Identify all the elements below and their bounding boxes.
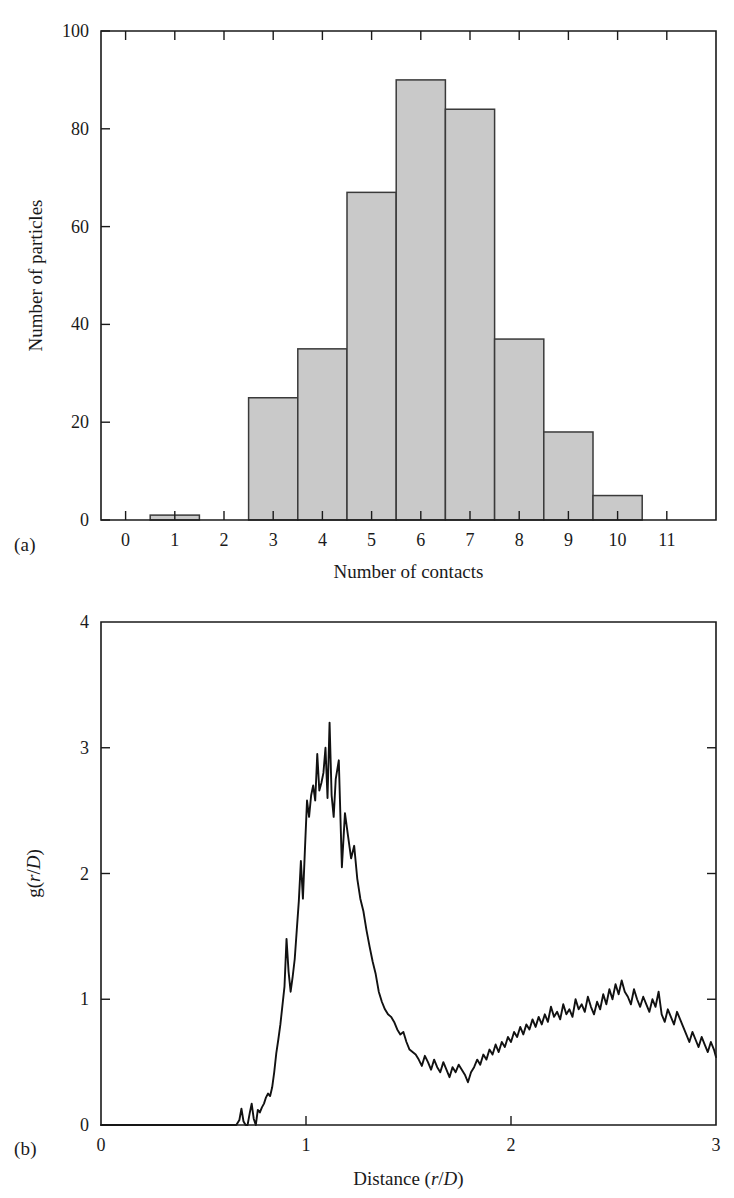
histogram-bar xyxy=(347,192,396,520)
y-tick-label: 2 xyxy=(80,864,89,884)
x-tick-label: 1 xyxy=(170,530,179,550)
bar-group xyxy=(150,80,642,520)
x-tick-label: 3 xyxy=(269,530,278,550)
x-tick-label: 6 xyxy=(416,530,425,550)
x-tick-label: 2 xyxy=(507,1135,516,1155)
x-axis-title: Distance (r/D) xyxy=(353,1168,463,1190)
x-axis-ticks: 0123 xyxy=(97,1116,721,1155)
x-tick-label: 10 xyxy=(609,530,627,550)
panel-a-tag: (a) xyxy=(14,534,36,556)
y-tick-label: 1 xyxy=(80,989,89,1009)
x-tick-label: 8 xyxy=(515,530,524,550)
histogram-bar xyxy=(544,432,593,520)
y-tick-label: 40 xyxy=(71,314,89,334)
radial-distribution-plot: 012340123Distance (r/D)g(r/D) xyxy=(0,598,734,1198)
x-tick-label: 2 xyxy=(220,530,229,550)
histogram-bar xyxy=(249,398,298,520)
y-tick-label: 100 xyxy=(62,21,89,41)
histogram-bar xyxy=(298,349,347,520)
y-axis-ticks: 020406080100 xyxy=(62,21,110,530)
figure-container: 02040608010001234567891011Number of cont… xyxy=(0,0,734,1198)
y-tick-label: 0 xyxy=(80,1115,89,1135)
histogram-bar xyxy=(396,80,445,520)
y-axis-ticks: 01234 xyxy=(80,612,716,1135)
panel-b-line-chart: 012340123Distance (r/D)g(r/D) xyxy=(0,598,734,1198)
x-tick-label: 1 xyxy=(302,1135,311,1155)
x-tick-label: 9 xyxy=(564,530,573,550)
histogram-bar xyxy=(495,339,544,520)
x-tick-label: 4 xyxy=(318,530,327,550)
panel-b-tag: (b) xyxy=(14,1138,37,1160)
x-tick-label: 7 xyxy=(466,530,475,550)
x-tick-label: 5 xyxy=(367,530,376,550)
panel-a-histogram: 02040608010001234567891011Number of cont… xyxy=(0,0,734,600)
x-tick-label: 0 xyxy=(121,530,130,550)
x-tick-label: 0 xyxy=(97,1135,106,1155)
y-tick-label: 80 xyxy=(71,119,89,139)
y-tick-label: 4 xyxy=(80,612,89,632)
x-axis-title: Number of contacts xyxy=(334,561,484,582)
y-axis-title: Number of particles xyxy=(25,200,46,352)
x-tick-label: 11 xyxy=(658,530,675,550)
y-tick-label: 60 xyxy=(71,217,89,237)
histogram-bar xyxy=(445,109,494,520)
y-tick-label: 3 xyxy=(80,738,89,758)
y-axis-title: g(r/D) xyxy=(23,849,45,898)
x-tick-label: 3 xyxy=(712,1135,721,1155)
histogram-plot: 02040608010001234567891011Number of cont… xyxy=(0,0,734,600)
gr-curve xyxy=(101,723,716,1125)
y-tick-label: 20 xyxy=(71,412,89,432)
y-tick-label: 0 xyxy=(80,510,89,530)
